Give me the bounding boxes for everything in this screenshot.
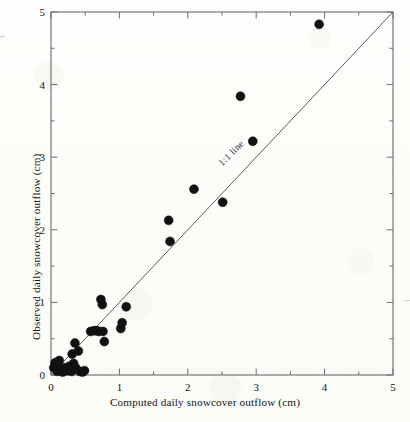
data-point — [98, 300, 107, 309]
data-point — [166, 237, 175, 246]
y-axis-tick-label: 0 — [32, 369, 45, 381]
y-axis-tick-label: 3 — [32, 151, 45, 163]
data-point-group — [49, 20, 323, 377]
y-axis-tick-label: 5 — [32, 6, 45, 18]
x-axis-tick-label: 3 — [253, 381, 259, 393]
plot-canvas — [0, 0, 410, 422]
data-point — [98, 327, 107, 336]
data-point — [100, 337, 109, 346]
x-axis-tick-label: 1 — [117, 381, 123, 393]
data-point — [122, 302, 131, 311]
x-axis-title: Computed daily snowcover outflow (cm) — [0, 396, 410, 408]
y-axis-tick-label: 2 — [32, 224, 45, 236]
x-axis-tick-label: 5 — [390, 381, 396, 393]
scatter-plot-figure: Computed daily snowcover outflow (cm) Ob… — [0, 0, 410, 422]
x-axis-tick-label: 2 — [185, 381, 191, 393]
data-point — [80, 366, 89, 375]
data-point — [236, 92, 245, 101]
data-point — [218, 198, 227, 207]
data-point — [248, 137, 257, 146]
x-axis-tick-label: 0 — [48, 381, 54, 393]
x-axis-tick-label: 4 — [322, 381, 328, 393]
data-point — [118, 318, 127, 327]
data-point — [189, 185, 198, 194]
y-axis-tick-label: 1 — [32, 296, 45, 308]
data-point — [74, 347, 83, 356]
one-to-one-line — [51, 12, 393, 375]
y-axis-tick-label: 4 — [32, 79, 45, 91]
data-point — [70, 339, 79, 348]
y-axis-title: Observed daily snowcover outflow (cm) — [30, 154, 42, 340]
data-point — [315, 20, 324, 29]
data-point — [164, 216, 173, 225]
